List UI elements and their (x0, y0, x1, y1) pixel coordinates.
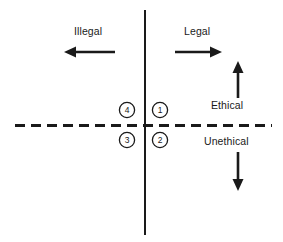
legal-arrow (175, 47, 222, 58)
ethical-label: Ethical (211, 100, 243, 111)
marker-label-1: 1 (150, 106, 170, 115)
marker-label-3: 3 (117, 136, 137, 145)
diagram-canvas (0, 0, 283, 242)
marker-label-2: 2 (150, 136, 170, 145)
quadrant-diagram: Illegal Legal Ethical Unethical 1 2 3 4 (0, 0, 283, 242)
legal-label: Legal (184, 26, 210, 37)
illegal-arrow (64, 47, 115, 58)
illegal-label: Illegal (74, 26, 102, 37)
ethical-arrow (233, 61, 244, 98)
unethical-arrow (233, 152, 244, 191)
marker-label-4: 4 (117, 106, 137, 115)
unethical-label: Unethical (204, 136, 249, 147)
